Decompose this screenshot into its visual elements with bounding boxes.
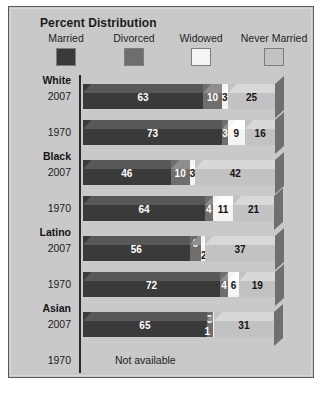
legend-label: Married	[37, 32, 95, 44]
legend-swatch-divorced	[124, 48, 144, 66]
segment-divorced: 10	[171, 160, 190, 185]
segment-divorced: 10	[203, 84, 222, 109]
segment-never-married: 19	[239, 272, 275, 297]
segment-never-married: 42	[195, 160, 275, 185]
segment-widowed: 6	[228, 272, 239, 297]
segment-widowed: 9	[228, 120, 245, 145]
segment-never-married: 37	[205, 236, 275, 261]
group-black: Black 2007 1970 46 10 3 42 64 4 11 21	[9, 149, 313, 223]
legend-label: Never Married	[233, 32, 315, 44]
row-label-asian-1970: 1970	[9, 354, 71, 366]
legend-item-widowed: Widowed	[171, 32, 231, 66]
legend-item-married: Married	[37, 32, 95, 66]
segment-married: 64	[83, 196, 205, 221]
table-row: 63 10 3 25	[83, 75, 288, 109]
segment-never-married: 21	[233, 196, 273, 221]
segment-never-married: 25	[228, 84, 276, 109]
table-row: 64 4 11 21	[83, 187, 288, 221]
table-row: 65 3 1 31	[83, 303, 288, 337]
chart-title: Percent Distribution	[40, 16, 157, 30]
table-row: 46 10 3 42	[83, 151, 288, 185]
table-row: 72 4 6 19	[83, 263, 288, 297]
segment-married: 73	[83, 120, 222, 145]
segment-value: 1	[205, 325, 211, 336]
legend-label: Divorced	[103, 32, 165, 44]
row-label-black-1970: 1970	[9, 202, 71, 214]
chart-panel: Percent Distribution Married Divorced Wi…	[8, 6, 314, 378]
group-label-latino: Latino	[9, 226, 71, 238]
legend-swatch-never-married	[264, 48, 284, 66]
legend-swatch-widowed	[191, 48, 211, 66]
table-row: 56 6 2 37	[83, 227, 288, 261]
segment-married: 65	[83, 312, 207, 337]
legend-item-divorced: Divorced	[103, 32, 165, 66]
not-available-note: Not available	[115, 354, 176, 366]
segment-married: 72	[83, 272, 220, 297]
legend-label: Widowed	[171, 32, 231, 44]
group-label-white: White	[9, 74, 71, 86]
segment-never-married: 31	[214, 312, 273, 337]
segment-divorced: 4	[220, 272, 228, 297]
row-label-asian-2007: 2007	[9, 318, 71, 330]
group-asian: Asian 2007 1970 65 3 1 31 Not available	[9, 301, 313, 373]
row-label-latino-2007: 2007	[9, 242, 71, 254]
segment-widowed: 11	[213, 196, 234, 221]
group-label-asian: Asian	[9, 302, 71, 314]
table-row: 73 3 9 16	[83, 111, 288, 145]
group-latino: Latino 2007 1970 56 6 2 37 72 4 6 19	[9, 225, 313, 299]
segment-never-married: 16	[245, 120, 275, 145]
segment-married: 46	[83, 160, 171, 185]
legend-item-never-married: Never Married	[233, 32, 315, 66]
segment-divorced: 4	[205, 196, 213, 221]
group-label-black: Black	[9, 150, 71, 162]
group-white: White 2007 1970 63 10 3 25 73 3 9 16	[9, 73, 313, 147]
segment-married: 63	[83, 84, 203, 109]
row-label-latino-1970: 1970	[9, 278, 71, 290]
chart-legend: Married Divorced Widowed Never Married	[37, 32, 299, 72]
row-label-white-2007: 2007	[9, 90, 71, 102]
legend-swatch-married	[56, 48, 76, 66]
segment-married: 56	[83, 236, 190, 261]
segment-divorced: 6	[190, 236, 201, 261]
row-label-white-1970: 1970	[9, 126, 71, 138]
plot-area: White 2007 1970 63 10 3 25 73 3 9 16	[9, 73, 313, 377]
row-label-black-2007: 2007	[9, 166, 71, 178]
